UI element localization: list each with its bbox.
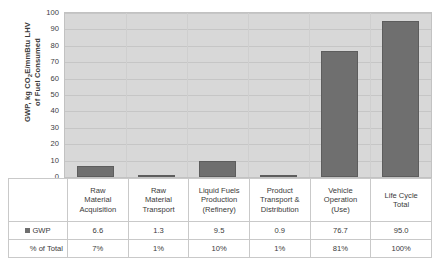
table-corner-cell (9, 179, 68, 222)
y-axis-ticks: 1009080706050403020100 (33, 12, 59, 178)
bar-slot (126, 13, 187, 177)
table-header-line: Production (201, 195, 237, 204)
table-header-line: Vehicle (328, 186, 353, 195)
y-axis-tick-label: 90 (33, 25, 59, 33)
table-value-cell: 1.3 (128, 222, 189, 240)
bar-product-transport-distribution[interactable] (260, 175, 298, 177)
table-value-cell: 10% (189, 240, 250, 258)
table-header-line: Product (267, 186, 293, 195)
table-header-line: Operation (324, 195, 357, 204)
bar-raw-material-transport[interactable] (138, 175, 176, 177)
chart-container: GWP, kg CO2E/mmBtu LHV of Fuel Consumed … (0, 0, 445, 265)
table-header-line: Life Cycle (384, 191, 417, 200)
table-header-line: Acquisition (79, 205, 116, 214)
table-header-cell: VehicleOperation(Use) (310, 179, 371, 222)
y-axis-title-subscript: 2 (27, 74, 33, 77)
bar-slot (248, 13, 309, 177)
legend-swatch-icon (25, 228, 30, 233)
table-value-cell: 76.7 (310, 222, 371, 240)
row-label-gwp: GWP (9, 222, 68, 240)
table-header-cell: RawMaterialTransport (128, 179, 189, 222)
y-axis-tick-label: 50 (33, 91, 59, 99)
y-axis-tick-label: 40 (33, 107, 59, 115)
table-header-row: RawMaterialAcquisitionRawMaterialTranspo… (9, 179, 432, 222)
table-header-line: Total (393, 200, 409, 209)
data-table: RawMaterialAcquisitionRawMaterialTranspo… (8, 178, 432, 258)
row-label-percent: % of Total (9, 240, 68, 258)
table-header-line: Material (145, 195, 172, 204)
table-header-line: (Use) (331, 205, 350, 214)
table-value-cell: 100% (371, 240, 432, 258)
bar-slot (370, 13, 431, 177)
table-header-line: Transport & (260, 195, 299, 204)
bar-slot (309, 13, 370, 177)
y-axis-tick-label: 80 (33, 42, 59, 50)
table-header-line: (Refinery) (202, 205, 235, 214)
bar-slot (65, 13, 126, 177)
table-header-cell: Liquid FuelsProduction(Refinery) (189, 179, 250, 222)
table-header-cell: Life CycleTotal (371, 179, 432, 222)
y-axis-tick-label: 20 (33, 140, 59, 148)
table-value-cell: 81% (310, 240, 371, 258)
y-axis-tick-label: 10 (33, 157, 59, 165)
table-header-cell: ProductTransport &Distribution (249, 179, 310, 222)
table-header-line: Liquid Fuels (199, 186, 240, 195)
table-row: GWP 6.61.39.50.976.795.0 (9, 222, 432, 240)
row-label-gwp-text: GWP (32, 226, 50, 235)
bar-life-cycle-total[interactable] (382, 21, 420, 177)
table-header-cell: RawMaterialAcquisition (68, 179, 129, 222)
table-value-cell: 1% (128, 240, 189, 258)
table-value-cell: 0.9 (249, 222, 310, 240)
data-table-wrapper: RawMaterialAcquisitionRawMaterialTranspo… (8, 178, 432, 258)
table-value-cell: 9.5 (189, 222, 250, 240)
bar-slot (187, 13, 248, 177)
table-row: % of Total 7%1%10%1%81%100% (9, 240, 432, 258)
y-axis-tick-label: 30 (33, 124, 59, 132)
bar-liquid-fuels-production-refinery[interactable] (199, 161, 237, 177)
plot-area (64, 12, 432, 178)
table-value-cell: 6.6 (68, 222, 129, 240)
table-value-cell: 95.0 (371, 222, 432, 240)
table-header-line: Transport (142, 205, 174, 214)
y-axis-tick-label: 60 (33, 75, 59, 83)
table-value-cell: 1% (249, 240, 310, 258)
bar-raw-material-acquisition[interactable] (77, 166, 115, 177)
table-header-line: Raw (90, 186, 105, 195)
bar-series-gwp (65, 13, 431, 177)
y-axis-tick-label: 70 (33, 58, 59, 66)
y-axis-tick-label: 100 (33, 9, 59, 17)
table-header-line: Material (84, 195, 111, 204)
bar-vehicle-operation-use[interactable] (321, 51, 359, 177)
table-header-line: Distribution (261, 205, 299, 214)
y-axis-title-suffix: E/mmBtu LHV (23, 22, 32, 74)
table-value-cell: 7% (68, 240, 129, 258)
table-header-line: Raw (151, 186, 166, 195)
y-axis-title-prefix: GWP, kg CO (23, 77, 32, 122)
